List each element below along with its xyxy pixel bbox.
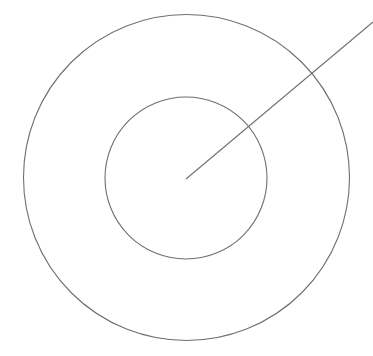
diagram-canvas: [0, 0, 373, 356]
outer-circle: [24, 15, 350, 341]
concentric-circles-diagram: [0, 0, 373, 356]
inner-circle: [105, 97, 267, 259]
radius-line: [186, 22, 373, 179]
